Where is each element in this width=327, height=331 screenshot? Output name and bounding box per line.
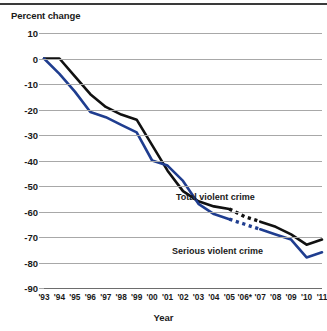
gridline--60 (44, 212, 322, 213)
gridline--10 (44, 84, 322, 85)
x-tick-label-03: '03 (193, 292, 204, 302)
y-tick-label-0: 0 (0, 53, 38, 64)
y-tick-label--80: -80 (0, 257, 38, 268)
x-tick-label-97: '97 (100, 292, 111, 302)
gridline-0 (44, 59, 322, 60)
x-tick-label-06: '06* (238, 292, 252, 302)
y-tick-label--50: -50 (0, 181, 38, 192)
x-tick-label-94: '94 (54, 292, 65, 302)
y-tick-label--70: -70 (0, 232, 38, 243)
y-tick-mark-10 (39, 33, 44, 34)
x-tick-label-02: '02 (177, 292, 188, 302)
y-tick-mark--40 (39, 161, 44, 162)
x-tick-label-00: '00 (147, 292, 158, 302)
x-tick-label-93: '93 (38, 292, 49, 302)
y-tick-label--40: -40 (0, 155, 38, 166)
y-tick-label--90: -90 (0, 283, 38, 294)
x-tick-label-11: '11 (317, 292, 327, 302)
x-tick-label-98: '98 (116, 292, 127, 302)
x-tick-label-04: '04 (208, 292, 219, 302)
x-tick-label-05: '05 (224, 292, 235, 302)
x-tick-label-08: '08 (270, 292, 281, 302)
series-label-total-violent-crime: Total violent crime (176, 192, 255, 202)
y-tick-label--60: -60 (0, 206, 38, 217)
y-tick-mark--60 (39, 212, 44, 213)
x-tick-label-01: '01 (162, 292, 173, 302)
y-tick-label--10: -10 (0, 79, 38, 90)
y-tick-label-10: 10 (0, 28, 38, 39)
y-tick-mark--80 (39, 263, 44, 264)
top-divider-rule (0, 3, 327, 5)
x-tick-label-09: '09 (286, 292, 297, 302)
gridline--90 (44, 288, 322, 289)
gridline--20 (44, 110, 322, 111)
x-tick-label-07: '07 (255, 292, 266, 302)
gridline--70 (44, 237, 322, 238)
x-tick-label-96: '96 (85, 292, 96, 302)
x-tick-label-99: '99 (131, 292, 142, 302)
x-tick-label-10: '10 (301, 292, 312, 302)
y-tick-mark--10 (39, 84, 44, 85)
y-tick-mark-0 (39, 59, 44, 60)
y-tick-mark--70 (39, 237, 44, 238)
gridline--30 (44, 135, 322, 136)
x-tick-label-95: '95 (69, 292, 80, 302)
y-tick-mark--90 (39, 288, 44, 289)
gridline--40 (44, 161, 322, 162)
y-tick-mark--50 (39, 186, 44, 187)
gridline--80 (44, 263, 322, 264)
y-axis-title: Percent change (11, 10, 80, 21)
y-tick-mark--30 (39, 135, 44, 136)
y-tick-label--30: -30 (0, 130, 38, 141)
gridline--50 (44, 186, 322, 187)
y-tick-label--20: -20 (0, 104, 38, 115)
x-axis-title: Year (0, 312, 327, 323)
chart-figure: Percent change Year Total violent crime … (0, 0, 327, 331)
y-tick-mark--20 (39, 110, 44, 111)
gridline-10 (44, 33, 322, 34)
series-label-serious-violent-crime: Serious violent crime (172, 246, 263, 256)
